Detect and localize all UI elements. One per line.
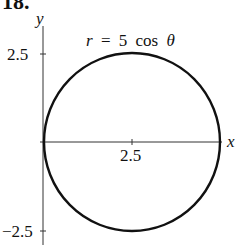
polar-plot: 18. y x 2.5 −2.5 2.5 r = 5 cos θ — [0, 0, 242, 245]
curve-label: r = 5 cos θ — [86, 31, 175, 50]
y-tick-label-top: 2.5 — [7, 45, 28, 64]
x-axis-label: x — [226, 132, 235, 151]
y-tick-label-bottom: −2.5 — [2, 222, 33, 241]
y-axis-label: y — [34, 9, 44, 28]
problem-number: 18. — [2, 0, 30, 14]
x-tick-label: 2.5 — [120, 146, 141, 165]
